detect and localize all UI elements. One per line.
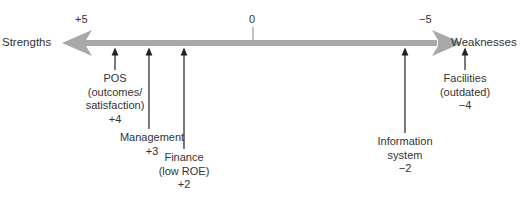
pos-arrowhead-icon (113, 49, 118, 55)
factor-pos-score: +4 (76, 113, 154, 127)
tick-label-zero: 0 (249, 13, 255, 25)
finance-arrowhead-icon (182, 49, 187, 55)
strengths-label: Strengths (2, 36, 51, 48)
factor-information-system-score: −2 (370, 162, 440, 176)
factor-pos: POS (outcomes/ satisfaction) +4 (76, 72, 154, 126)
information-system-arrowhead-icon (403, 49, 408, 55)
factor-information-system-detail: system (370, 149, 440, 163)
tick-label-plus5: +5 (75, 13, 88, 25)
facilities-arrowhead-icon (463, 49, 468, 55)
factor-information-system-name: Information (370, 135, 440, 149)
double-headed-arrow (62, 30, 462, 56)
factor-facilities: Facilities (outdated) −4 (430, 72, 500, 113)
factor-pos-detail-1: (outcomes/ (76, 86, 154, 100)
factor-management-name: Management (112, 131, 192, 145)
factor-facilities-score: −4 (430, 99, 500, 113)
factor-pos-detail-2: satisfaction) (76, 99, 154, 113)
factor-finance: Finance (low ROE) +2 (152, 151, 216, 192)
factor-finance-detail: (low ROE) (152, 165, 216, 179)
factor-finance-score: +2 (152, 178, 216, 192)
factor-facilities-name: Facilities (430, 72, 500, 86)
factor-information-system: Information system −2 (370, 135, 440, 176)
factor-pos-name: POS (76, 72, 154, 86)
tick-label-minus5: −5 (419, 13, 432, 25)
factor-finance-name: Finance (152, 151, 216, 165)
management-arrowhead-icon (147, 49, 152, 55)
factor-facilities-detail: (outdated) (430, 86, 500, 100)
weaknesses-label: Weaknesses (451, 36, 517, 48)
